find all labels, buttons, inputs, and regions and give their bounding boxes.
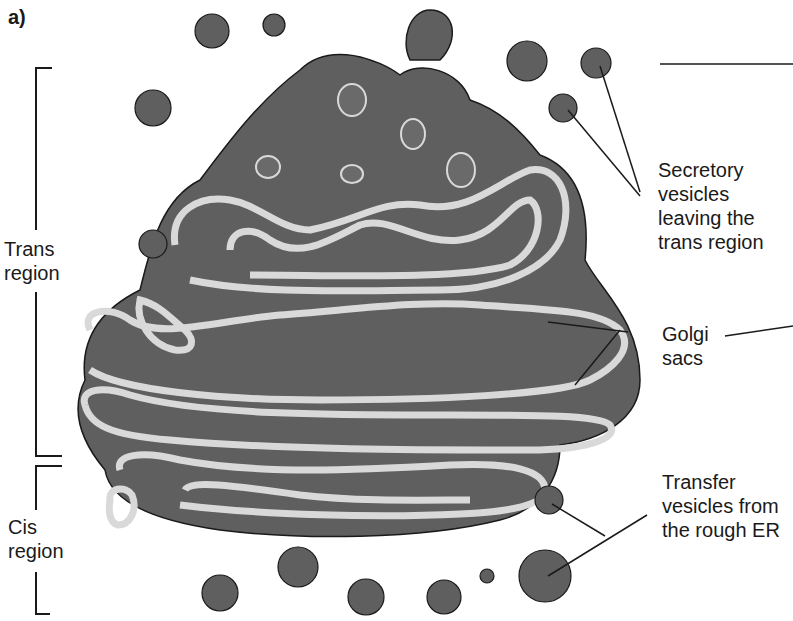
secretory-line4: trans region <box>658 230 764 254</box>
golgi-line1: Golgi <box>662 322 709 346</box>
secretory-line3: leaving the <box>658 206 764 230</box>
golgi-line2: sacs <box>662 346 709 370</box>
transfer-line2: vesicles from <box>662 494 780 518</box>
vesicle <box>263 14 285 36</box>
trans-label-line2: region <box>4 261 60 285</box>
vesicle <box>348 579 384 615</box>
vesicle <box>427 580 461 614</box>
vesicle <box>549 94 577 122</box>
vesicle <box>195 14 229 48</box>
secretory-vesicles-label: Secretory vesicles leaving the trans reg… <box>658 158 764 254</box>
vesicle <box>480 569 494 583</box>
trans-region-label: Trans region <box>4 237 60 285</box>
secretory-line1: Secretory <box>658 158 764 182</box>
trans-label-line1: Trans <box>4 237 60 261</box>
vesicle <box>535 486 563 514</box>
vesicle <box>278 547 318 587</box>
golgi-sacs-label: Golgi sacs <box>662 322 709 370</box>
transfer-vesicles-label: Transfer vesicles from the rough ER <box>662 470 780 542</box>
transfer-line3: the rough ER <box>662 518 780 542</box>
cis-label-line2: region <box>8 539 64 563</box>
vesicle <box>139 230 167 258</box>
vesicle <box>507 41 547 81</box>
cis-label-line1: Cis <box>8 515 64 539</box>
cis-region-label: Cis region <box>8 515 64 563</box>
vesicle <box>581 48 611 78</box>
vesicle <box>519 550 571 602</box>
secretory-line2: vesicles <box>658 182 764 206</box>
transfer-line1: Transfer <box>662 470 780 494</box>
vesicle <box>135 90 171 126</box>
vesicle <box>202 575 238 611</box>
